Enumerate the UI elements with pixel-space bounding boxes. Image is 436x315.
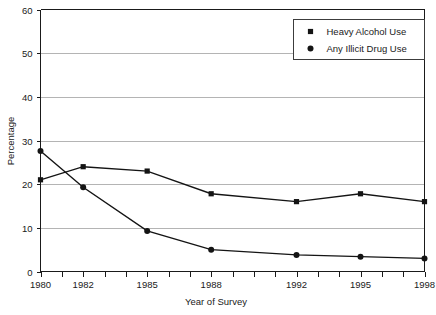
chart-legend: Heavy Alcohol UseAny Illicit Drug Use [294, 20, 425, 60]
x-tick-label-1998: 1998 [414, 279, 435, 290]
data-point [422, 255, 428, 261]
y-axis-title: Percentage [5, 117, 16, 166]
data-point [209, 191, 214, 196]
legend-label-1: Heavy Alcohol Use [327, 26, 407, 37]
chart-canvas: 0102030405060 19801982198519881992199519… [0, 0, 436, 315]
data-point [38, 177, 43, 182]
y-tick-label-40: 40 [22, 92, 33, 103]
y-tick-label-30: 30 [22, 136, 33, 147]
x-tick-label-1982: 1982 [73, 279, 94, 290]
line-chart: 0102030405060 19801982198519881992199519… [0, 0, 436, 315]
legend-marker-circle [308, 46, 314, 52]
data-point [144, 228, 150, 234]
data-point [294, 199, 299, 204]
legend-label-2: Any Illicit Drug Use [327, 43, 407, 54]
y-tick-label-20: 20 [22, 179, 33, 190]
data-point [422, 199, 427, 204]
x-tick-label-1980: 1980 [30, 279, 51, 290]
data-point [294, 252, 300, 258]
y-tick-label-0: 0 [27, 267, 32, 278]
data-point [208, 247, 214, 253]
data-point [145, 168, 150, 173]
y-tick-label-10: 10 [22, 223, 33, 234]
x-tick-label-1988: 1988 [201, 279, 222, 290]
x-axis-title: Year of Survey [185, 296, 247, 307]
data-point [38, 148, 44, 154]
data-point [80, 184, 86, 190]
y-tick-label-60: 60 [22, 5, 33, 16]
data-point [358, 254, 364, 260]
y-tick-label-50: 50 [22, 48, 33, 59]
x-tick-label-1992: 1992 [286, 279, 307, 290]
data-point [358, 191, 363, 196]
x-tick-label-1985: 1985 [137, 279, 158, 290]
x-tick-label-1995: 1995 [350, 279, 371, 290]
legend-marker-square [308, 29, 313, 34]
data-point [81, 164, 86, 169]
